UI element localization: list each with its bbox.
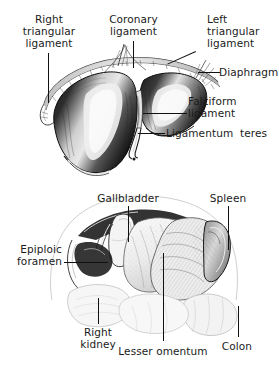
label-diaphragm: Diaphragm — [219, 66, 279, 78]
colon — [183, 294, 237, 336]
label-spleen: Spleen — [202, 192, 254, 204]
leader-right-triangular-ligament — [48, 53, 49, 103]
label-ligamentum-teres: Ligamentum teres — [166, 127, 278, 139]
leader-diaphragm — [198, 72, 220, 73]
label-falciform-ligament: Falciform ligament — [188, 95, 258, 119]
leader-falciform-ligament — [143, 113, 187, 114]
anatomy-figure: Right triangular ligament Coronary ligam… — [0, 0, 279, 376]
leader-right-kidney — [98, 298, 99, 324]
label-colon: Colon — [212, 340, 262, 352]
label-right-triangular-ligament: Right triangular ligament — [12, 13, 86, 50]
greater-omentum-fringe — [119, 294, 188, 334]
leader-epiploic-foramen — [64, 262, 108, 263]
leader-gallbladder — [128, 206, 129, 242]
liver-right-lobe — [54, 72, 137, 176]
lower-panel-viscera — [51, 196, 238, 336]
leader-colon — [238, 306, 239, 337]
label-left-triangular-ligament: Left triangular ligament — [207, 13, 277, 50]
label-lesser-omentum: Lesser omentum — [112, 345, 214, 357]
label-coronary-ligament: Coronary ligament — [100, 13, 167, 37]
leader-ligamentum-teres — [138, 133, 165, 134]
label-epiploic-foramen: Epiploic foramen — [0, 243, 62, 267]
leader-coronary-ligament — [133, 41, 134, 68]
label-gallbladder: Gallbladder — [88, 192, 168, 204]
leader-spleen — [228, 206, 229, 250]
leader-lesser-omentum — [163, 253, 164, 341]
